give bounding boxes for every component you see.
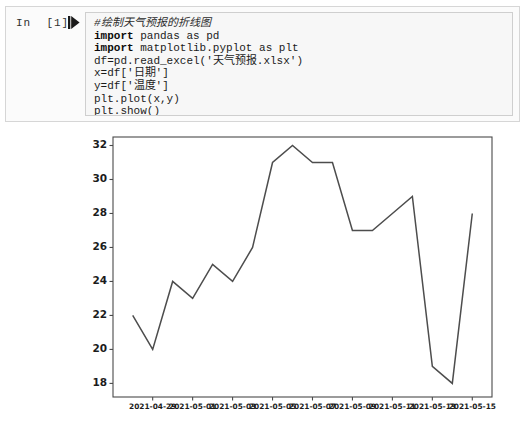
notebook-code-cell[interactable]: In [1]: #绘制天气预报的折线图 import pandas as pd … [5, 6, 520, 122]
y-tick-label: 28 [92, 206, 107, 218]
line-chart: 1820222426283032 2021-04-292021-05-01202… [5, 126, 520, 431]
code-line-import-pandas: pandas as pd [134, 30, 220, 42]
code-line-y-assign: y=df['温度'] [94, 80, 169, 92]
run-cell-icon[interactable] [68, 16, 80, 29]
code-line-comment: #绘制天气预报的折线图 [94, 17, 211, 29]
notebook-page: In [1]: #绘制天气预报的折线图 import pandas as pd … [0, 0, 525, 435]
code-line-plot: plt.plot(x,y) [94, 93, 180, 105]
figure-background [5, 126, 520, 431]
y-tick-label: 22 [92, 308, 107, 320]
y-tick-label: 30 [92, 172, 107, 184]
matplotlib-figure: 1820222426283032 2021-04-292021-05-01202… [5, 126, 520, 431]
x-tick-label: 2021-05-15 [449, 402, 496, 411]
code-line-import-pyplot: matplotlib.pyplot as plt [134, 42, 299, 54]
y-tick-label: 18 [92, 376, 107, 388]
y-tick-label: 24 [92, 274, 107, 286]
code-input-area[interactable]: #绘制天气预报的折线图 import pandas as pd import m… [85, 12, 513, 116]
y-tick-label: 26 [92, 240, 107, 252]
code-line-show: plt.show() [94, 105, 160, 116]
code-line-x-assign: x=df['日期'] [94, 67, 169, 79]
code-line-read-excel: df=pd.read_excel('天气预报.xlsx') [94, 55, 303, 67]
y-tick-label: 20 [92, 342, 107, 354]
y-tick-label: 32 [92, 138, 107, 150]
cell-output-area: 1820222426283032 2021-04-292021-05-01202… [5, 126, 520, 431]
